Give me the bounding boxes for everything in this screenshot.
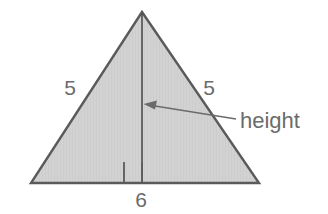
- height-callout-label: height: [240, 108, 300, 133]
- triangle-height-diagram: height 5 5 6: [0, 0, 328, 214]
- label-left-leg-length: 5: [64, 76, 76, 99]
- diagram-canvas: height 5 5 6: [0, 0, 328, 214]
- label-right-leg-length: 5: [203, 76, 215, 99]
- label-base-length: 6: [135, 188, 147, 211]
